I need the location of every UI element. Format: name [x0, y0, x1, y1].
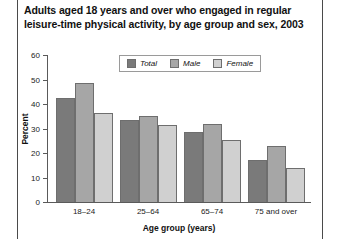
legend-swatch-icon [170, 59, 179, 68]
x-category-label: 18–24 [73, 207, 95, 216]
legend-label: Total [140, 59, 157, 68]
x-axis-line [47, 202, 311, 203]
bar-total [120, 120, 139, 202]
y-tick-mark [43, 202, 47, 203]
bar-male [203, 124, 222, 202]
x-axis-title: Age group (years) [47, 223, 311, 233]
y-tick-label: 20 [31, 149, 40, 158]
legend-item: Female [213, 59, 253, 68]
legend-label: Female [226, 59, 253, 68]
y-tick-mark [43, 104, 47, 105]
y-tick-label: 40 [31, 100, 40, 109]
y-tick-mark [43, 153, 47, 154]
plot-area: Percent 0102030405060 18–2425–6465–7475 … [47, 55, 311, 203]
x-category-label: 65–74 [201, 207, 223, 216]
bar-group [120, 55, 177, 202]
y-tick-label: 10 [31, 173, 40, 182]
bar-group [248, 55, 305, 202]
bar-female [222, 140, 241, 202]
y-tick-mark [43, 55, 47, 56]
bar-total [56, 98, 75, 202]
chart-legend: TotalMaleFemale [119, 55, 261, 72]
bar-male [139, 116, 158, 202]
y-axis-title: Percent [20, 113, 30, 144]
x-category-label: 25–64 [137, 207, 159, 216]
chart-title: Adults aged 18 years and over who engage… [24, 4, 316, 31]
axis-area: Percent 0102030405060 18–2425–6465–7475 … [47, 55, 311, 203]
bar-female [158, 125, 177, 202]
bar-total [184, 132, 203, 202]
bar-group [56, 55, 113, 202]
y-tick-mark [43, 178, 47, 179]
bar-total [248, 160, 267, 202]
bar-female [94, 113, 113, 202]
bar-female [286, 168, 305, 202]
legend-item: Male [170, 59, 200, 68]
bar-group [184, 55, 241, 202]
legend-item: Total [127, 59, 157, 68]
right-border-rule [322, 0, 323, 239]
bar-male [75, 83, 94, 202]
chart-figure: Adults aged 18 years and over who engage… [0, 0, 340, 239]
y-tick-label: 60 [31, 51, 40, 60]
bar-male [267, 146, 286, 202]
legend-swatch-icon [213, 59, 222, 68]
y-tick-label: 50 [31, 75, 40, 84]
y-tick-mark [43, 80, 47, 81]
legend-swatch-icon [127, 59, 136, 68]
legend-label: Male [183, 59, 200, 68]
left-border-rule [17, 0, 18, 239]
x-category-label: 75 and over [255, 207, 297, 216]
y-tick-label: 0 [36, 198, 40, 207]
bar-groups [48, 55, 311, 202]
y-tick-mark [43, 129, 47, 130]
y-tick-label: 30 [31, 124, 40, 133]
